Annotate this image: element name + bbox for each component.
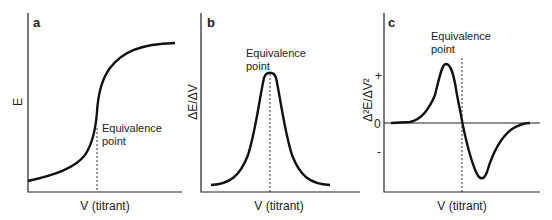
panel-c-letter: c — [388, 15, 395, 30]
panel-b-curve — [211, 73, 330, 185]
panel-c-tick-plus: + — [375, 69, 382, 83]
panel-b-annotation-line2: point — [246, 60, 270, 72]
panel-a-ylabel: E — [11, 98, 25, 106]
panel-a-letter: a — [33, 15, 41, 30]
panel-c-curve — [391, 64, 530, 178]
panel-c-annotation-line2: point — [431, 43, 455, 55]
panel-a-annotation-line2: point — [102, 135, 126, 147]
panel-b-annotation-line1: Equivalence — [246, 47, 306, 59]
panel-b-xlabel: V (titrant) — [254, 199, 303, 213]
panel-c-ylabel: Δ²E/ΔV² — [361, 78, 375, 121]
panel-b-letter: b — [207, 15, 215, 30]
panel-c-annotation-line1: Equivalence — [431, 30, 491, 42]
titration-figure: a E V (titrant) Equivalence point b ΔE/Δ… — [0, 0, 552, 220]
panel-a-axes — [28, 13, 182, 192]
panel-c: c Δ²E/ΔV² + 0 - V (titrant) Equivalence … — [361, 13, 540, 213]
panel-a-curve — [28, 43, 175, 181]
panel-a: a E V (titrant) Equivalence point — [11, 13, 182, 213]
panel-c-tick-minus: - — [377, 145, 381, 159]
panel-b-ylabel: ΔE/ΔV — [186, 84, 200, 119]
panel-c-xlabel: V (titrant) — [437, 199, 486, 213]
panel-c-tick-zero: 0 — [374, 117, 381, 131]
panel-a-annotation-line1: Equivalence — [102, 122, 162, 134]
panel-b: b ΔE/ΔV V (titrant) Equivalence point — [186, 13, 360, 213]
panel-a-xlabel: V (titrant) — [80, 199, 129, 213]
